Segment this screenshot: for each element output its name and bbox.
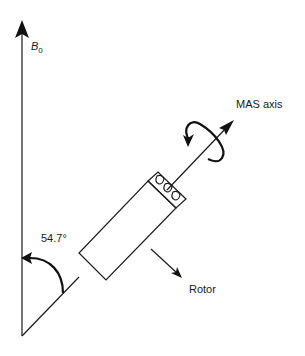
- rotation-arrow-icon: [183, 122, 223, 161]
- mas-axis-label: MAS axis: [236, 98, 283, 110]
- rotor-pointer-arrow: [151, 249, 182, 278]
- mas-diagram: B0 MAS axis 54.7° Rotor: [0, 0, 305, 356]
- angle-arc-arrow: [21, 252, 63, 293]
- rotor-label: Rotor: [189, 283, 216, 295]
- angle-label: 54.7°: [41, 232, 67, 244]
- mas-axis-arrow: [22, 120, 234, 336]
- rotor-body: [79, 181, 176, 280]
- rotor-cap-turbine-icons: [156, 175, 180, 200]
- b0-field-arrow: [15, 20, 29, 336]
- rotor: [79, 172, 186, 280]
- b0-label: B0: [31, 40, 43, 55]
